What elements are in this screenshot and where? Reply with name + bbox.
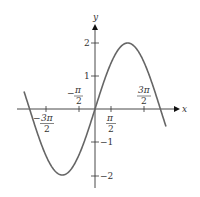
sine-chart: x y 2 1 −1 −2 − 3π 2 − π 2 π 2 3 xyxy=(0,0,200,197)
x-tick-label-neg-pi-2: − π 2 xyxy=(67,85,83,106)
svg-text:π: π xyxy=(106,113,114,123)
svg-text:3π: 3π xyxy=(41,113,54,123)
x-tick-label-pi-2: π 2 xyxy=(106,113,116,134)
y-axis-label: y xyxy=(92,12,99,22)
svg-text:2: 2 xyxy=(108,124,114,134)
svg-text:2: 2 xyxy=(76,96,82,106)
x-axis-label: x xyxy=(182,104,187,114)
svg-text:2: 2 xyxy=(44,124,50,134)
y-tick-label-neg2: −2 xyxy=(100,171,113,181)
svg-text:2: 2 xyxy=(141,96,147,106)
y-tick-label-2: 2 xyxy=(84,38,90,48)
y-axis-arrow-icon xyxy=(92,24,98,30)
y-tick-label-neg1: −1 xyxy=(100,137,113,147)
x-tick-label-3pi-2: 3π 2 xyxy=(137,85,151,106)
y-tick-label-1: 1 xyxy=(84,71,90,81)
svg-text:−: − xyxy=(67,88,75,98)
svg-text:π: π xyxy=(74,85,82,95)
svg-text:3π: 3π xyxy=(138,85,151,95)
x-axis-arrow-icon xyxy=(174,106,180,112)
